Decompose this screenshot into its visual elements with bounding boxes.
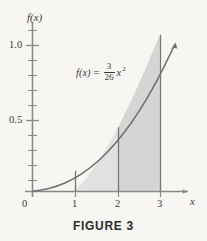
function-annotation: f(x) = 3 26 x2 — [76, 62, 126, 82]
y-tick-label-0.5: 0.5 — [9, 115, 22, 126]
figure-caption: FIGURE 3 — [0, 219, 207, 233]
formula-exponent: 2 — [122, 65, 126, 73]
curve-arrow-icon — [171, 43, 177, 50]
x-tick-label-1: 1 — [72, 199, 77, 210]
origin-label: 0 — [22, 199, 27, 210]
plot-area — [0, 0, 207, 215]
function-name: f(x) — [76, 67, 91, 78]
fraction-denominator: 26 — [104, 73, 115, 82]
y-tick-label-1.0: 1.0 — [9, 40, 22, 51]
shaded-region-2-to-3 — [118, 35, 160, 191]
fraction-numerator: 3 — [106, 62, 113, 71]
equals-sign: = — [94, 67, 100, 78]
formula-variable: x — [117, 67, 122, 78]
figure-container: f(x) x 1.0 0.5 0 1 2 3 f(x) = 3 26 x2 FI… — [0, 0, 207, 241]
x-tick-label-3: 3 — [157, 199, 162, 210]
shaded-region-1-to-2 — [75, 128, 118, 192]
x-axis-label: x — [190, 196, 195, 207]
y-axis-label: f(x) — [27, 12, 42, 23]
fraction: 3 26 — [104, 62, 115, 82]
x-tick-label-2: 2 — [115, 199, 120, 210]
